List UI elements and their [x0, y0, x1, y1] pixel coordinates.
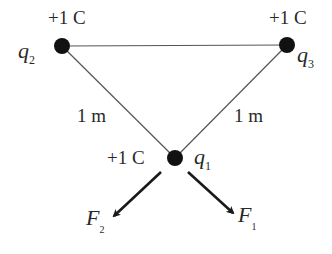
charge-value-q3: +1 C: [269, 7, 307, 28]
charge-triangle-diagram: +1 C +1 C +1 C q2 q3 q1 1 m 1 m F2 F1: [0, 0, 332, 254]
charge-dot-q2: [54, 38, 70, 54]
charge-value-q2: +1 C: [48, 7, 86, 28]
distance-label-q2-q1: 1 m: [77, 105, 106, 126]
force-arrow-f2: [114, 172, 161, 216]
charge-name-q3: q3: [297, 42, 314, 71]
force-arrow-f1: [188, 172, 233, 213]
charge-name-q2: q2: [18, 38, 35, 67]
side-q2-q1: [62, 46, 175, 158]
force-label-f1: F1: [237, 202, 256, 232]
charge-name-q1: q1: [194, 144, 211, 173]
distance-label-q3-q1: 1 m: [234, 105, 263, 126]
charge-dot-q3: [279, 37, 295, 53]
side-q3-q1: [175, 45, 287, 158]
charge-value-q1: +1 C: [107, 147, 145, 168]
force-label-f2: F2: [85, 205, 104, 235]
side-q2-q3: [62, 45, 287, 46]
charge-dot-q1: [167, 150, 183, 166]
